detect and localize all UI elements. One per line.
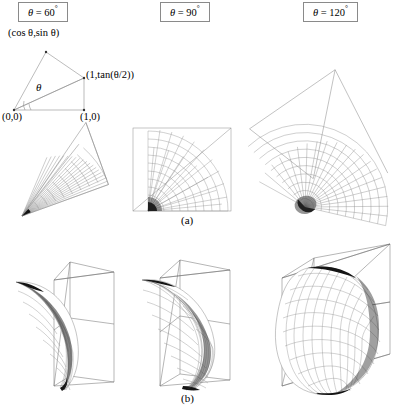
panel-b3-surface-120 [275, 244, 390, 395]
b3-surface [275, 266, 380, 395]
b1-shade-edge [16, 282, 72, 389]
b2-box-frame [160, 260, 230, 386]
figure-canvas: θ = 60° θ = 90° θ = 120° (cos θ,sin θ) (… [0, 0, 393, 415]
panel-b1-surface-60 [16, 262, 114, 391]
b2-surface [142, 280, 215, 391]
b1-surface [16, 282, 78, 391]
row-b-panels [0, 0, 393, 415]
caption-row-b: (b) [181, 392, 194, 404]
panel-b2-surface-90 [142, 260, 230, 390]
